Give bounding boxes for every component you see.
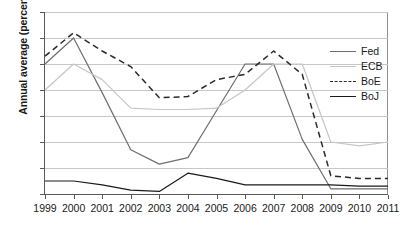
legend-swatch-ecb-icon [330,66,356,67]
legend-item-boj[interactable]: BoJ [330,89,394,104]
legend-label-fed: Fed [361,44,379,59]
legend-label-boe: BoE [361,74,381,89]
legend-swatch-boj-icon [330,96,356,97]
legend-label-ecb: ECB [361,59,383,74]
legend-item-fed[interactable]: Fed [330,44,394,59]
legend-item-boe[interactable]: BoE [330,74,394,89]
legend-swatch-boe-icon [330,81,356,82]
legend-label-boj: BoJ [361,89,379,104]
chart-legend: Fed ECB BoE BoJ [330,44,394,104]
legend-item-ecb[interactable]: ECB [330,59,394,74]
legend-swatch-fed-icon [330,51,356,52]
